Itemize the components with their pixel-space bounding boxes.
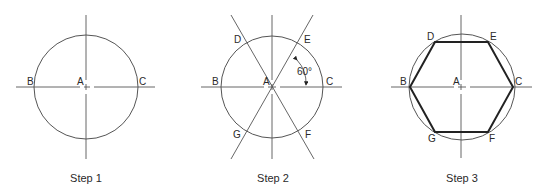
- step-1-panel: A B C Step 1: [16, 15, 155, 184]
- label-g: G: [428, 133, 436, 144]
- label-b: B: [212, 76, 219, 87]
- step-3-caption: Step 3: [446, 172, 478, 184]
- hexagon-construction-diagram: A B C Step 1 60° A B C D E F G Step 2: [0, 0, 545, 192]
- label-c: C: [139, 76, 146, 87]
- label-c: C: [515, 76, 522, 87]
- label-e: E: [304, 34, 311, 45]
- label-b: B: [400, 76, 407, 87]
- label-a: A: [263, 76, 270, 87]
- label-f: F: [489, 133, 495, 144]
- step-1-caption: Step 1: [70, 172, 102, 184]
- label-b: B: [27, 76, 34, 87]
- label-d: D: [427, 31, 434, 42]
- step-3-panel: A B C D E F G Step 3: [391, 15, 532, 184]
- step-2-panel: 60° A B C D E F G Step 2: [201, 15, 342, 184]
- label-a: A: [453, 76, 460, 87]
- label-c: C: [326, 76, 333, 87]
- label-f: F: [305, 129, 311, 140]
- label-d: D: [234, 34, 241, 45]
- angle-label: 60°: [297, 66, 312, 77]
- label-e: E: [490, 31, 497, 42]
- label-g: G: [233, 129, 241, 140]
- step-2-caption: Step 2: [257, 172, 289, 184]
- label-a: A: [77, 76, 84, 87]
